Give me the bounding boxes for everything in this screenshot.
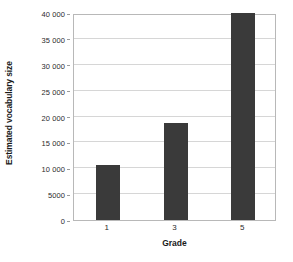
y-axis-tick-mark: [67, 195, 70, 196]
y-axis-tick-label: 35 000: [41, 35, 65, 44]
y-axis-tick-labels: 0500010 00015 00020 00025 00030 00035 00…: [18, 0, 70, 240]
y-axis-tick-mark: [67, 169, 70, 170]
x-axis-tick-label: 5: [240, 223, 244, 232]
y-axis-tick-label: 5000: [48, 191, 65, 200]
y-axis-tick-mark: [67, 91, 70, 92]
y-axis-title-text: Estimated vocabulary size: [4, 61, 14, 165]
bar-chart-figure: Estimated vocabulary size 0500010 00015 …: [0, 0, 293, 262]
y-axis-tick-mark: [67, 14, 70, 15]
x-axis-tick-label: 1: [105, 223, 109, 232]
x-axis-tick-labels: 135: [73, 223, 276, 237]
y-axis-tick-label: 20 000: [41, 113, 65, 122]
y-axis-tick-label: 15 000: [41, 139, 65, 148]
x-axis-title: Grade: [73, 238, 276, 248]
y-axis-tick-label: 10 000: [41, 165, 65, 174]
y-axis-tick-mark: [67, 65, 70, 66]
bar: [231, 13, 255, 220]
bars-layer: [74, 15, 275, 220]
bar: [96, 165, 120, 220]
y-axis-tick-mark: [67, 39, 70, 40]
plot-area: [73, 14, 276, 221]
bar: [164, 123, 188, 220]
y-axis-tick-mark: [67, 117, 70, 118]
y-axis-tick-label: 0: [61, 217, 65, 226]
y-axis-tick-label: 25 000: [41, 87, 65, 96]
y-axis-tick-mark: [67, 143, 70, 144]
y-axis-title: Estimated vocabulary size: [0, 0, 18, 225]
x-axis-tick-label: 3: [172, 223, 176, 232]
y-axis-tick-label: 30 000: [41, 61, 65, 70]
y-axis-tick-label: 40 000: [41, 10, 65, 19]
y-axis-tick-mark: [67, 221, 70, 222]
